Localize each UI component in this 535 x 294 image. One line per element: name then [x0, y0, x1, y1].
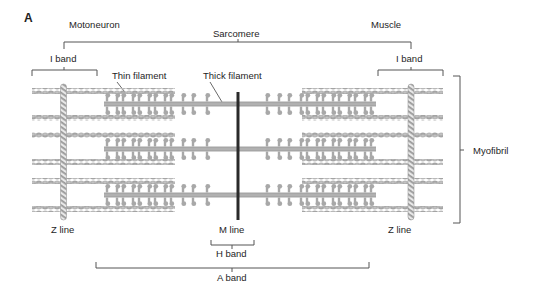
z-line-left: [61, 84, 67, 220]
thick-filaments: [104, 93, 376, 206]
z-line-right: [408, 84, 414, 220]
i-band-left-bracket: [32, 67, 97, 76]
i-band-right-bracket: [378, 67, 443, 76]
h-band-bracket: [211, 240, 254, 249]
sarcomere-diagram: [0, 0, 535, 294]
sarcomere-bracket: [64, 39, 411, 49]
m-line: [237, 92, 240, 220]
thick-filament-pointer: [210, 82, 222, 102]
myofibril-bracket: [453, 76, 464, 223]
a-band-bracket: [96, 262, 369, 272]
